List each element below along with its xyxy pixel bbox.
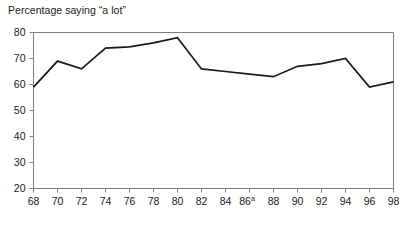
x-tick-label: 78: [148, 195, 160, 207]
x-tick-label: 68: [28, 195, 40, 207]
x-tick-label: 96: [364, 195, 376, 207]
x-axis: 68707274767880828486a889092949698: [28, 189, 400, 207]
x-tick-label: 80: [172, 195, 184, 207]
data-series-line: [34, 38, 394, 87]
x-tick-label: 98: [388, 195, 400, 207]
y-tick-label: 80: [14, 26, 26, 38]
y-axis: 20304050607080: [14, 26, 34, 194]
x-tick-label: 86a: [239, 195, 255, 207]
plot-frame: [34, 33, 394, 189]
y-tick-label: 40: [14, 130, 26, 142]
x-tick-label: 72: [76, 195, 88, 207]
x-tick-label: 88: [268, 195, 280, 207]
x-tick-superscript: a: [251, 195, 255, 202]
x-tick-label: 84: [220, 195, 232, 207]
line-chart-plot: 20304050607080 68707274767880828486a8890…: [0, 0, 408, 228]
x-tick-label: 82: [196, 195, 208, 207]
x-tick-label: 92: [316, 195, 328, 207]
x-tick-label: 74: [100, 195, 112, 207]
x-tick-label: 90: [292, 195, 304, 207]
x-tick-label: 76: [124, 195, 136, 207]
y-tick-label: 20: [14, 182, 26, 194]
x-tick-label: 94: [340, 195, 352, 207]
series-line: [34, 38, 394, 87]
y-tick-label: 50: [14, 104, 26, 116]
y-tick-label: 60: [14, 78, 26, 90]
chart-figure: Percentage saying “a lot” 20304050607080…: [0, 0, 408, 228]
y-tick-label: 30: [14, 156, 26, 168]
x-tick-label: 70: [52, 195, 64, 207]
y-tick-label: 70: [14, 52, 26, 64]
